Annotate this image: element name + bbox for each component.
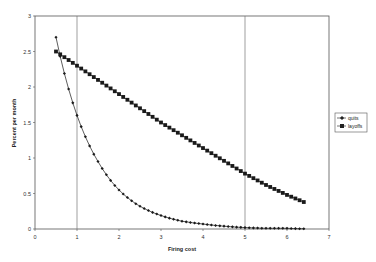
data-point — [235, 167, 239, 171]
data-point — [121, 95, 125, 99]
data-point — [273, 187, 277, 191]
y-tick-label: 1.5 — [23, 120, 31, 126]
data-point — [176, 219, 179, 222]
data-point — [147, 209, 150, 212]
y-tick-label: 2.5 — [23, 49, 31, 55]
data-point — [172, 218, 175, 221]
data-point — [134, 104, 138, 108]
data-point — [201, 146, 205, 150]
data-point — [147, 112, 151, 116]
data-point — [172, 128, 176, 132]
y-tick-label: 3 — [28, 13, 31, 19]
data-point — [218, 156, 222, 160]
data-point — [168, 126, 172, 130]
data-point — [180, 133, 184, 137]
y-axis: 00.511.522.53 — [23, 13, 35, 232]
data-point — [159, 121, 163, 125]
data-point — [260, 181, 264, 185]
data-point — [222, 225, 225, 228]
data-point — [92, 153, 95, 156]
data-point — [290, 227, 293, 230]
data-point — [109, 87, 113, 91]
data-point — [168, 217, 171, 220]
data-point — [71, 101, 74, 104]
data-point — [289, 195, 293, 199]
data-point — [138, 106, 142, 110]
data-point — [100, 81, 104, 85]
data-point — [277, 189, 281, 193]
data-point — [54, 50, 58, 54]
data-point — [163, 123, 167, 127]
plot-area — [35, 16, 329, 229]
series-quits — [54, 36, 305, 231]
data-point — [80, 125, 83, 128]
data-point — [184, 136, 188, 140]
data-point — [256, 179, 260, 183]
data-point — [201, 222, 204, 225]
data-point — [151, 115, 155, 119]
data-point — [88, 144, 91, 147]
x-tick-label: 2 — [117, 234, 120, 240]
data-point — [113, 89, 117, 93]
data-point — [63, 72, 66, 75]
data-point — [193, 141, 197, 145]
data-point — [151, 211, 154, 214]
data-point — [197, 144, 201, 148]
chart: 00.511.522.53 01234567 Firing cost Perce… — [0, 0, 376, 262]
data-point — [302, 200, 306, 204]
data-point — [214, 154, 218, 158]
data-point — [71, 61, 75, 65]
data-point — [176, 131, 180, 135]
data-point — [159, 214, 162, 217]
data-point — [252, 176, 256, 180]
data-point — [298, 198, 302, 202]
data-point — [84, 135, 87, 138]
y-tick-label: 2 — [28, 84, 31, 90]
y-tick-label: 1 — [28, 155, 31, 161]
data-point — [189, 138, 193, 142]
x-tick-label: 5 — [243, 234, 246, 240]
data-point — [264, 183, 268, 187]
square-marker-icon — [340, 124, 344, 128]
data-point — [105, 84, 109, 88]
data-point — [96, 78, 100, 82]
y-tick-label: 0 — [28, 226, 31, 232]
legend-label-quits: quits — [348, 115, 359, 121]
data-point — [142, 109, 146, 113]
data-point — [92, 75, 96, 79]
data-point — [214, 224, 217, 227]
data-point — [231, 164, 235, 168]
data-point — [294, 227, 297, 230]
data-point — [227, 225, 230, 228]
legend: quits layoffs — [335, 113, 367, 132]
data-point — [75, 114, 78, 117]
data-point — [235, 226, 238, 229]
data-point — [281, 191, 285, 195]
data-point — [231, 225, 234, 228]
data-point — [79, 67, 83, 71]
data-point — [54, 36, 57, 39]
data-point — [63, 55, 67, 59]
data-point — [302, 227, 305, 230]
data-point — [117, 92, 121, 96]
data-point — [58, 52, 62, 56]
data-point — [218, 224, 221, 227]
data-point — [222, 159, 226, 163]
x-tick-label: 0 — [33, 234, 36, 240]
data-point — [294, 197, 298, 201]
y-tick-label: 0.5 — [23, 191, 31, 197]
data-point — [130, 101, 134, 105]
x-tick-label: 4 — [201, 234, 204, 240]
x-tick-label: 6 — [285, 234, 288, 240]
data-point — [206, 223, 209, 226]
x-axis-title: Firing cost — [168, 246, 196, 252]
x-tick-label: 1 — [75, 234, 78, 240]
data-point — [239, 169, 243, 173]
data-point — [67, 87, 70, 90]
series-layoffs — [54, 50, 306, 204]
data-point — [185, 220, 188, 223]
y-axis-title: Percent per month — [11, 98, 17, 147]
data-point — [268, 185, 272, 189]
data-point — [189, 221, 192, 224]
data-point — [197, 222, 200, 225]
